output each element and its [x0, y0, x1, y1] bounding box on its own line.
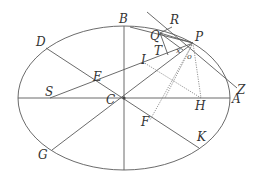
- label-r: R: [169, 13, 179, 27]
- label-s: S: [45, 85, 53, 99]
- label-e: E: [92, 70, 102, 84]
- label-p: P: [194, 30, 204, 44]
- label-h: H: [194, 99, 206, 113]
- line-ih: [143, 62, 201, 98]
- label-k: K: [196, 130, 207, 144]
- label-t: T: [154, 44, 163, 58]
- label-f: F: [140, 115, 150, 129]
- label-g: G: [38, 148, 48, 162]
- label-b: B: [118, 12, 128, 26]
- diameter-gp: [52, 43, 193, 150]
- line-sp: [50, 43, 193, 98]
- label-q: Q: [150, 29, 160, 43]
- line-ph: [193, 43, 201, 98]
- ellipse-diagram: B D E S C A H F K G I T Q R P Z x o: [0, 0, 258, 180]
- label-i: I: [140, 53, 146, 67]
- center-point: [122, 96, 125, 99]
- label-c: C: [106, 93, 115, 107]
- label-z: Z: [236, 83, 246, 97]
- line-to-p-upper: [130, 27, 193, 43]
- label-x: x: [176, 46, 181, 55]
- label-o: o: [187, 52, 192, 61]
- label-d: D: [35, 35, 46, 49]
